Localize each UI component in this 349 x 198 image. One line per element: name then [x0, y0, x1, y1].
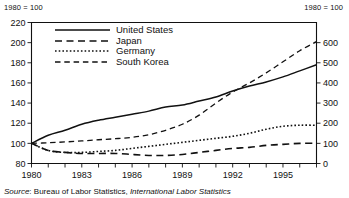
y2-axis-tick-label: 300 — [323, 98, 338, 108]
chart-figure: 1980 = 100 1980 = 100 801001201401601802… — [0, 0, 349, 198]
y-axis-tick-label: 80 — [15, 159, 25, 169]
legend-swatch-de — [54, 46, 111, 56]
legend-swatch-kr — [54, 57, 111, 67]
legend-label-us: United States — [111, 25, 173, 35]
y2-axis-tick-label: 400 — [323, 78, 338, 88]
legend-item-kr: South Korea — [54, 57, 174, 68]
x-axis-tick-label: 1995 — [273, 170, 293, 180]
x-axis-tick-label: 1983 — [72, 170, 92, 180]
y2-axis-tick-label: 600 — [323, 38, 338, 48]
legend-item-jp: Japan — [54, 36, 174, 47]
y2-axis-tick-label: 0 — [323, 159, 328, 169]
x-axis-tick-label: 1989 — [172, 170, 192, 180]
series-line-united-states — [32, 65, 317, 144]
y-axis-tick-label: 160 — [10, 78, 25, 88]
legend-label-kr: South Korea — [111, 57, 169, 67]
legend-label-de: Germany — [111, 46, 155, 56]
legend-item-de: Germany — [54, 46, 174, 57]
chart-legend: United StatesJapanGermanySouth Korea — [54, 25, 174, 67]
source-publication: International Labor Statistics — [130, 187, 231, 196]
x-axis-tick-label: 1980 — [21, 170, 41, 180]
series-line-japan — [32, 143, 317, 155]
y-axis-tick-label: 180 — [10, 58, 25, 68]
line-chart-plot: 8010012014016018020022001002003004005006… — [0, 0, 349, 198]
y2-axis-tick-label: 100 — [323, 139, 338, 149]
source-label: Source — [4, 187, 29, 196]
y-axis-tick-label: 200 — [10, 38, 25, 48]
source-caption: Source: Bureau of Labor Statistics, Inte… — [4, 187, 231, 196]
y-axis-tick-label: 220 — [10, 18, 25, 28]
legend-swatch-us — [54, 25, 111, 35]
x-axis-tick-label: 1992 — [223, 170, 243, 180]
series-line-germany — [32, 125, 317, 152]
y-axis-tick-label: 140 — [10, 98, 25, 108]
legend-label-jp: Japan — [111, 36, 142, 46]
legend-item-us: United States — [54, 25, 174, 36]
source-agency: Bureau of Labor Statistics, — [34, 187, 130, 196]
y2-axis-tick-label: 500 — [323, 58, 338, 68]
legend-swatch-jp — [54, 36, 111, 46]
y-axis-tick-label: 120 — [10, 118, 25, 128]
y-axis-tick-label: 100 — [10, 139, 25, 149]
y2-axis-tick-label: 200 — [323, 118, 338, 128]
x-axis-tick-label: 1986 — [122, 170, 142, 180]
